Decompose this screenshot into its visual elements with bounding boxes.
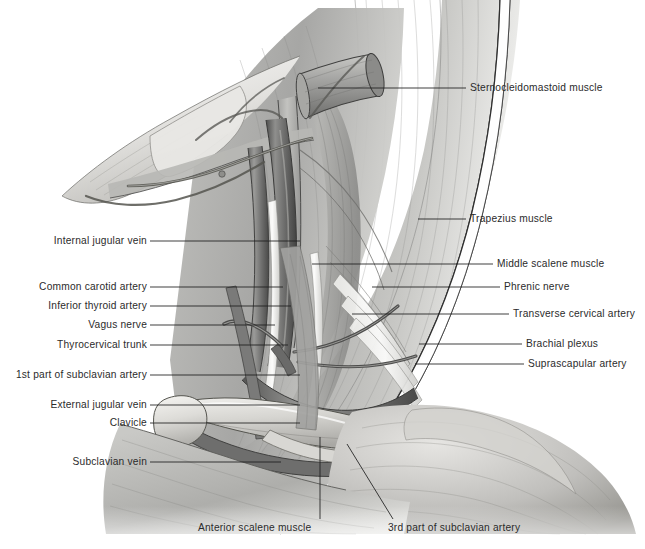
label-middle-scalene-muscle: Middle scalene muscle xyxy=(497,258,604,269)
anatomy-figure: Internal jugular vein Common carotid art… xyxy=(0,0,645,549)
label-transverse-cervical-artery: Transverse cervical artery xyxy=(513,308,636,319)
label-thyrocervical-trunk: Thyrocervical trunk xyxy=(57,339,148,350)
label-subclavian-vein: Subclavian vein xyxy=(73,456,147,467)
label-clavicle: Clavicle xyxy=(110,417,147,428)
label-first-part-of-subclavian-artery: 1st part of subclavian artery xyxy=(16,369,148,380)
label-anterior-scalene-muscle: Anterior scalene muscle xyxy=(198,522,312,533)
label-inferior-thyroid-artery: Inferior thyroid artery xyxy=(48,300,147,311)
anatomy-illustration-canvas: Internal jugular vein Common carotid art… xyxy=(0,0,645,549)
label-internal-jugular-vein: Internal jugular vein xyxy=(54,235,147,246)
label-sternocleidomastoid-muscle: Sternocleidomastoid muscle xyxy=(470,82,603,93)
label-phrenic-nerve: Phrenic nerve xyxy=(504,281,570,292)
label-trapezius-muscle: Trapezius muscle xyxy=(470,213,553,224)
label-common-carotid-artery: Common carotid artery xyxy=(39,281,148,292)
label-3rd-part-of-subclavian-artery: 3rd part of subclavian artery xyxy=(388,522,521,533)
label-external-jugular-vein: External jugular vein xyxy=(50,399,147,410)
label-suprascapular-artery: Suprascapular artery xyxy=(528,358,627,369)
label-brachial-plexus: Brachial plexus xyxy=(526,338,598,349)
label-vagus-nerve: Vagus nerve xyxy=(88,319,147,330)
